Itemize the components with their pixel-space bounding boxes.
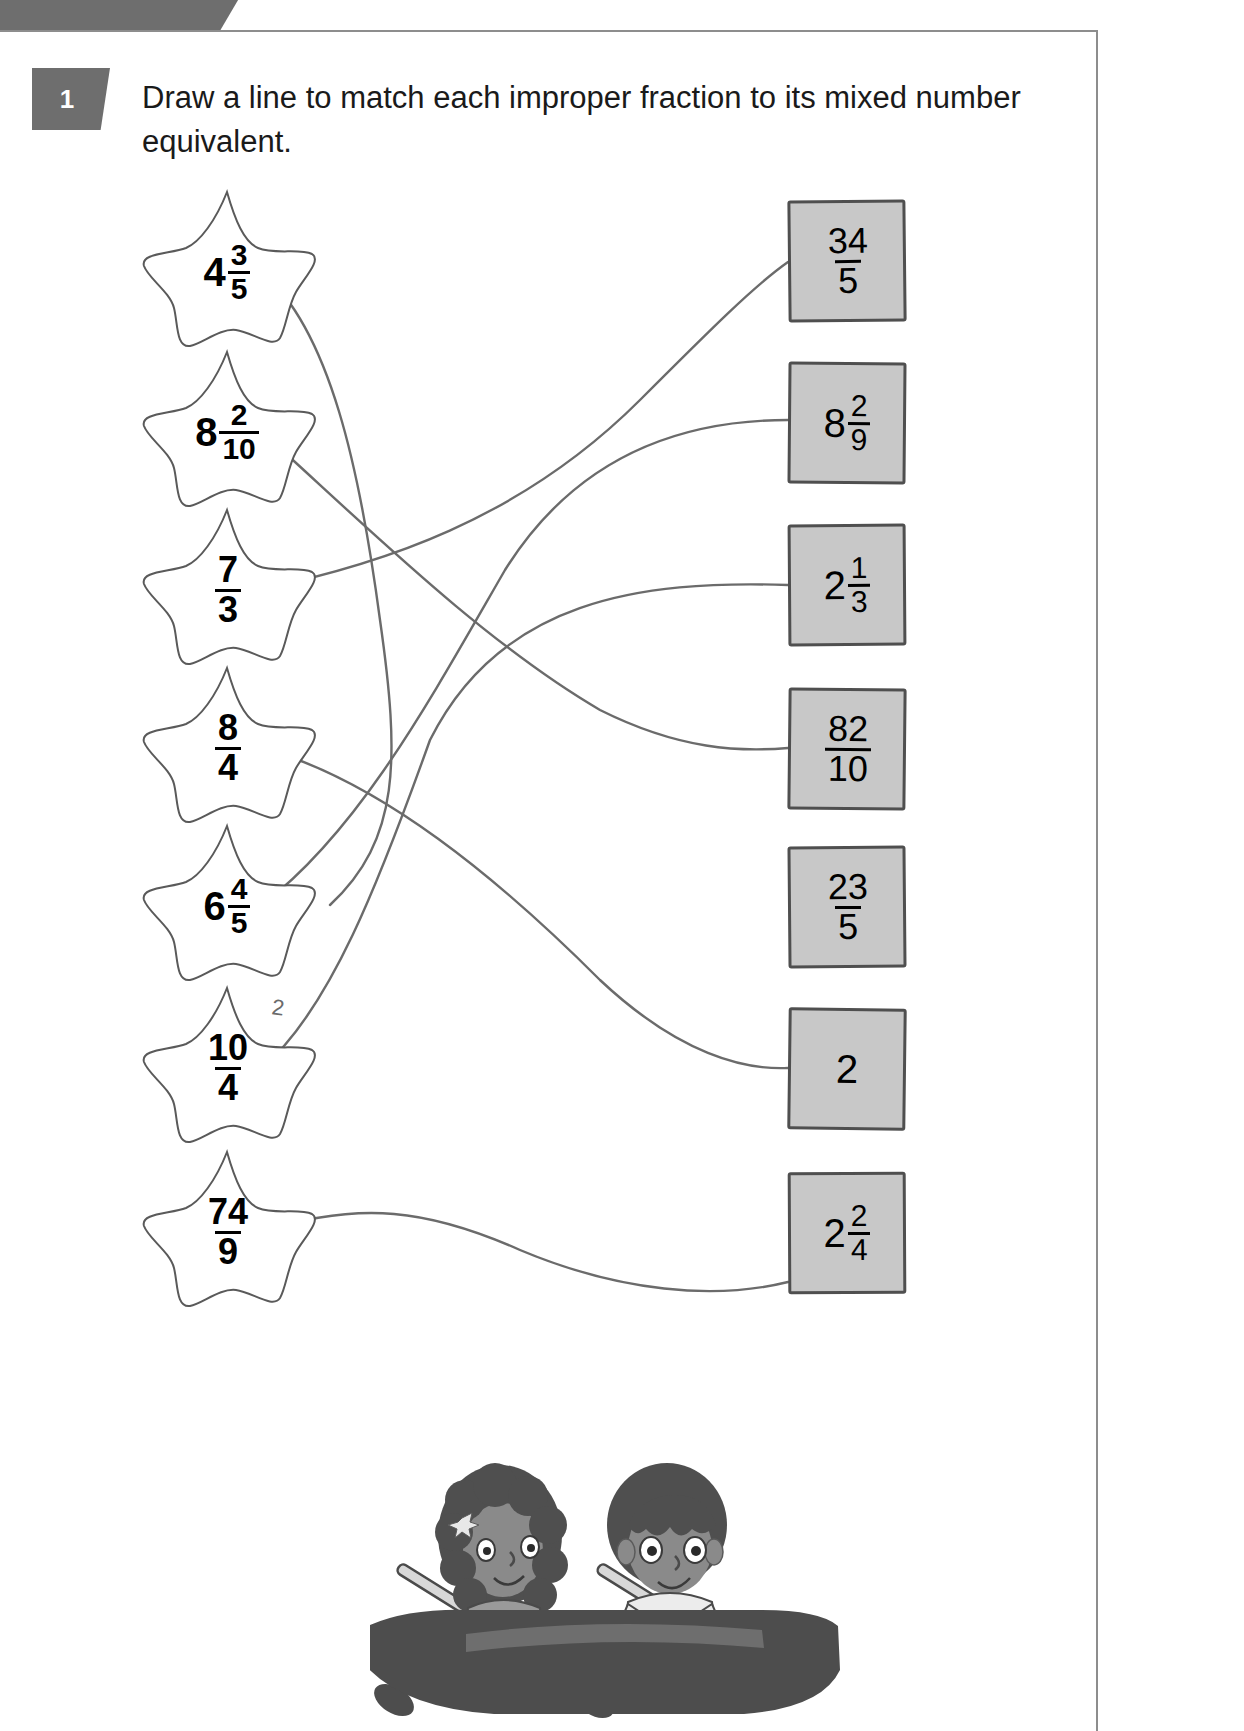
box-2-denominator: 9 xyxy=(848,422,871,456)
star-7-numerator: 74 xyxy=(205,1194,251,1231)
box-1-value: 34 5 xyxy=(825,223,872,300)
star-4-numerator: 8 xyxy=(215,710,241,747)
box-1[interactable]: 34 5 xyxy=(787,199,906,322)
box-4-value: 82 10 xyxy=(825,711,872,788)
star-2[interactable]: 8 2 10 xyxy=(132,342,322,522)
box-7-whole: 2 xyxy=(823,1213,845,1253)
box-7[interactable]: 2 2 4 xyxy=(788,1172,907,1295)
box-4-denominator: 10 xyxy=(825,747,871,787)
star-1-value: 4 3 5 xyxy=(132,182,322,362)
star-3-value: 7 3 xyxy=(132,500,322,680)
box-2-whole: 8 xyxy=(823,403,846,443)
star-5-numerator: 4 xyxy=(228,874,251,905)
star-3-numerator: 7 xyxy=(215,552,241,589)
box-4-numerator: 82 xyxy=(825,711,871,748)
star-6-numerator: 10 xyxy=(205,1030,251,1067)
star-2-numerator: 2 xyxy=(228,400,251,431)
boat-hull xyxy=(370,1610,840,1714)
box-7-numerator: 2 xyxy=(848,1201,871,1232)
box-2[interactable]: 8 2 9 xyxy=(787,361,906,484)
star-5-value: 6 4 5 xyxy=(132,816,322,996)
box-3-denominator: 3 xyxy=(848,583,871,617)
box-5-denominator: 5 xyxy=(835,905,861,945)
box-3[interactable]: 2 1 3 xyxy=(788,524,907,647)
star-5-denominator: 5 xyxy=(228,905,251,939)
star-6-value: 10 4 xyxy=(132,978,322,1158)
box-5[interactable]: 23 5 xyxy=(787,845,906,968)
box-4[interactable]: 82 10 xyxy=(787,687,906,810)
box-7-value: 2 2 4 xyxy=(823,1201,870,1265)
star-5[interactable]: 6 4 5 xyxy=(132,816,322,996)
star-1[interactable]: 4 3 5 xyxy=(132,182,322,362)
star-6-denominator: 4 xyxy=(215,1067,241,1107)
box-3-value: 2 1 3 xyxy=(823,553,870,618)
question-number-badge: 1 xyxy=(32,68,110,130)
star-1-denominator: 5 xyxy=(228,271,251,305)
star-2-whole: 8 xyxy=(195,412,217,452)
worksheet-page: Challenge 1 1 Draw a line to match each … xyxy=(0,0,1244,1731)
box-2-value: 8 2 9 xyxy=(823,391,870,456)
box-6[interactable]: 2 xyxy=(787,1007,906,1130)
box-7-denominator: 4 xyxy=(848,1231,871,1265)
star-1-numerator: 3 xyxy=(228,240,251,271)
star-7-denominator: 9 xyxy=(215,1231,241,1271)
question-instruction: Draw a line to match each improper fract… xyxy=(142,76,1022,164)
star-3-denominator: 3 xyxy=(215,589,241,629)
star-1-whole: 4 xyxy=(204,252,226,292)
star-6[interactable]: 10 4 xyxy=(132,978,322,1158)
challenge-tab: Challenge 1 xyxy=(0,0,258,30)
star-4-denominator: 4 xyxy=(215,747,241,787)
star-7[interactable]: 74 9 xyxy=(132,1142,322,1322)
star-5-whole: 6 xyxy=(204,886,226,926)
star-2-denominator: 10 xyxy=(219,431,258,465)
box-2-numerator: 2 xyxy=(848,391,871,422)
box-6-value: 2 xyxy=(836,1049,859,1089)
star-2-value: 8 2 10 xyxy=(132,342,322,522)
rowing-boat-illustration xyxy=(370,1300,840,1731)
box-5-numerator: 23 xyxy=(825,869,871,906)
star-7-value: 74 9 xyxy=(132,1142,322,1322)
box-3-numerator: 1 xyxy=(848,553,871,584)
box-1-denominator: 5 xyxy=(835,259,861,299)
star-4-value: 8 4 xyxy=(132,658,322,838)
box-1-numerator: 34 xyxy=(825,223,871,260)
box-3-whole: 2 xyxy=(823,565,846,605)
star-3[interactable]: 7 3 xyxy=(132,500,322,680)
box-5-value: 23 5 xyxy=(825,869,872,946)
star-4[interactable]: 8 4 xyxy=(132,658,322,838)
